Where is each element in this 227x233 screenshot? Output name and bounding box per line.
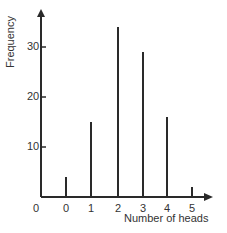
x-tick-label: 3	[140, 202, 146, 214]
x-tick-label: 5	[189, 202, 195, 214]
bars	[66, 27, 192, 197]
x-tick-label: 0	[63, 202, 69, 214]
origin-label: 0	[33, 202, 39, 214]
x-tick-label: 1	[88, 202, 94, 214]
x-tick-label: 2	[115, 202, 121, 214]
x-axis-arrow-icon	[204, 193, 213, 201]
y-axis-arrow-icon	[37, 9, 45, 17]
chart-canvas	[0, 0, 227, 233]
x-tick-label: 4	[164, 202, 170, 214]
y-tick-label: 20	[27, 90, 39, 102]
y-tick-label: 30	[27, 40, 39, 52]
y-axis-label: Frequency	[4, 16, 16, 68]
y-tick-label: 10	[27, 140, 39, 152]
axes	[37, 9, 213, 201]
